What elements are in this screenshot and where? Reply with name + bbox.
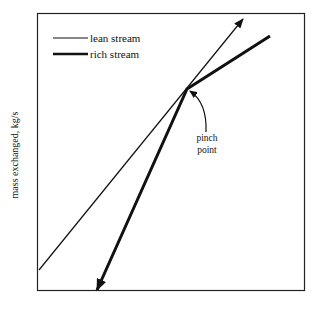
pinch-label-line1: pinch (196, 133, 217, 143)
legend-rich-label: rich stream (90, 48, 140, 60)
pinch-annotation-arrow (190, 91, 206, 132)
pinch-diagram: lean stream rich stream pinch point mass… (0, 0, 321, 309)
rich-stream-line (97, 36, 270, 290)
pinch-label-line2: point (197, 145, 217, 155)
legend-lean-label: lean stream (90, 32, 141, 44)
y-axis-label: mass exchanged, kg/s (9, 111, 20, 198)
